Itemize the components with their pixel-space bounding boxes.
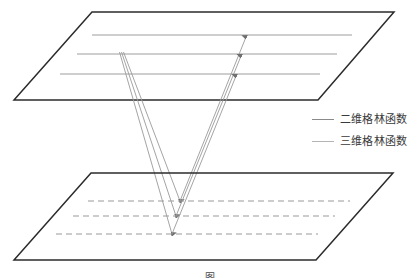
legend-item-3d: 三维格林函数 bbox=[312, 130, 416, 152]
legend: 二维格林函数 三维格林函数 bbox=[312, 108, 416, 152]
legend-swatch-2d-icon bbox=[312, 119, 334, 120]
lower-plane-dashed-lines bbox=[56, 201, 350, 234]
upper-plane-group bbox=[14, 12, 394, 100]
legend-label-2d: 二维格林函数 bbox=[340, 114, 407, 125]
lower-plane-group bbox=[14, 173, 393, 260]
legend-swatch-3d-icon bbox=[312, 141, 334, 142]
legend-item-2d: 二维格林函数 bbox=[312, 108, 416, 130]
legend-label-3d: 三维格林函数 bbox=[340, 136, 407, 147]
upper-plane-surface bbox=[14, 12, 394, 100]
figure-caption: 图 bbox=[0, 269, 420, 278]
